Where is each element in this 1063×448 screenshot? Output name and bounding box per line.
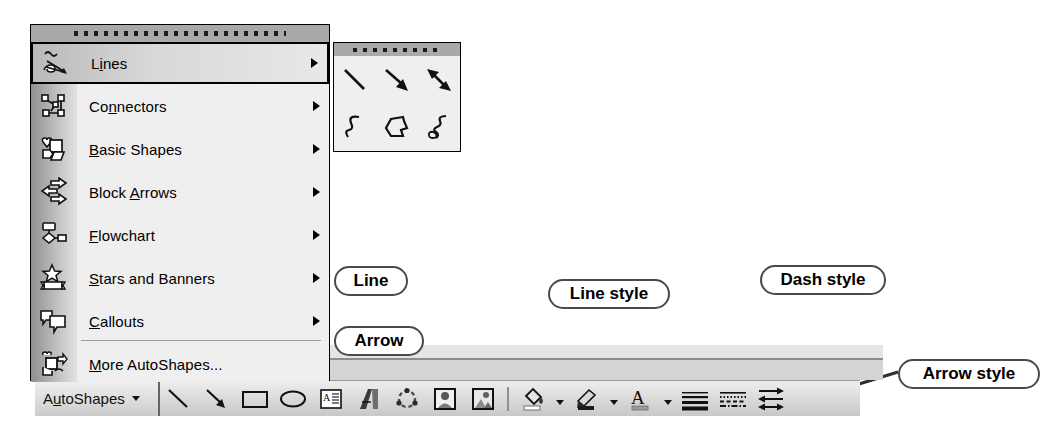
submenu-arrow-icon <box>303 101 329 111</box>
menu-item-block-arrows[interactable]: Block Arrows <box>31 171 329 213</box>
picture-button[interactable] <box>464 382 502 416</box>
dash-style-icon <box>718 387 748 411</box>
submenu-arrow-icon <box>303 187 329 197</box>
text-box-icon: A <box>319 388 343 410</box>
line-style-icon <box>680 387 710 411</box>
menu-item-label: Flowchart <box>77 227 303 244</box>
clip-art-button[interactable] <box>426 382 464 416</box>
arrow-style-button[interactable] <box>752 382 790 416</box>
fill-color-button[interactable] <box>514 382 552 416</box>
callout-arrow-style: Arrow style <box>898 359 1040 389</box>
menu-drag-handle[interactable] <box>31 25 329 42</box>
callouts-icon <box>31 300 77 342</box>
lines-submenu-grid <box>334 56 460 151</box>
document-canvas <box>330 152 883 345</box>
oval-button[interactable] <box>274 382 312 416</box>
chevron-down-icon <box>664 400 672 405</box>
menu-item-label: Callouts <box>77 313 303 330</box>
dash-style-button[interactable] <box>714 382 752 416</box>
submenu-arrow-icon <box>303 230 329 240</box>
callout-arrow: Arrow <box>334 326 424 356</box>
line-tool[interactable] <box>334 56 376 104</box>
chevron-down-icon <box>610 400 618 405</box>
scribble-icon <box>424 112 454 142</box>
submenu-drag-handle[interactable] <box>334 43 460 56</box>
rectangle-icon <box>240 388 270 410</box>
wordart-icon <box>356 387 382 411</box>
callout-dash-style: Dash style <box>760 265 886 295</box>
menu-item-flowchart[interactable]: Flowchart <box>31 214 329 256</box>
chevron-down-icon <box>132 396 140 401</box>
fill-color-dropdown[interactable] <box>552 382 568 416</box>
line-button[interactable] <box>160 382 198 416</box>
lines-submenu <box>333 42 461 152</box>
wordart-button[interactable] <box>350 382 388 416</box>
diagram-icon <box>394 387 420 411</box>
menu-item-label: Connectors <box>77 98 303 115</box>
menu-item-more-autoshapes[interactable]: More AutoShapes... <box>31 343 329 385</box>
font-color-dropdown[interactable] <box>660 382 676 416</box>
line-color-dropdown[interactable] <box>606 382 622 416</box>
menu-body: Lines Con <box>31 42 329 382</box>
arrow-style-icon <box>756 386 786 412</box>
menu-item-label: Block Arrows <box>77 184 303 201</box>
menu-item-callouts[interactable]: Callouts <box>31 300 329 342</box>
arrow-icon <box>204 388 230 410</box>
font-color-icon: A <box>628 386 654 412</box>
connectors-icon <box>31 85 77 127</box>
flowchart-icon <box>31 214 77 256</box>
drawing-toolbar: AutoShapes A <box>35 380 860 416</box>
submenu-arrow-icon <box>303 316 329 326</box>
arrow-icon <box>382 65 412 95</box>
clip-art-icon <box>433 387 457 411</box>
drag-dots-icon <box>353 48 441 52</box>
line-icon <box>166 388 192 410</box>
submenu-arrow-icon <box>303 144 329 154</box>
fill-color-icon <box>520 386 546 412</box>
menu-item-label: Lines <box>79 55 301 72</box>
menu-item-connectors[interactable]: Connectors <box>31 85 329 127</box>
curve-tool[interactable] <box>334 104 376 152</box>
drag-dots-icon <box>74 31 286 36</box>
callout-line: Line <box>334 266 408 296</box>
scribble-tool[interactable] <box>418 104 460 152</box>
autoshapes-popup-menu: Lines Con <box>30 24 330 381</box>
freeform-tool[interactable] <box>376 104 418 152</box>
stars-banners-icon <box>31 257 77 299</box>
autoshapes-button-label: AutoShapes <box>43 390 125 407</box>
line-icon <box>340 65 370 95</box>
double-arrow-icon <box>424 65 454 95</box>
more-autoshapes-icon <box>31 343 77 385</box>
text-box-button[interactable]: A <box>312 382 350 416</box>
menu-item-label: More AutoShapes... <box>77 356 303 373</box>
line-color-button[interactable] <box>568 382 606 416</box>
line-color-icon <box>574 386 600 412</box>
arrow-tool[interactable] <box>376 56 418 104</box>
diagram-button[interactable] <box>388 382 426 416</box>
menu-item-label: Basic Shapes <box>77 141 303 158</box>
toolbar-separator <box>507 387 509 411</box>
menu-item-stars-and-banners[interactable]: Stars and Banners <box>31 257 329 299</box>
submenu-arrow-icon <box>301 58 327 68</box>
picture-icon <box>471 387 495 411</box>
rectangle-button[interactable] <box>236 382 274 416</box>
toolbar-upper-band <box>330 360 883 380</box>
oval-icon <box>278 388 308 410</box>
submenu-arrow-icon <box>303 273 329 283</box>
double-arrow-tool[interactable] <box>418 56 460 104</box>
chevron-down-icon <box>556 400 564 405</box>
freeform-icon <box>382 112 412 142</box>
arrow-button[interactable] <box>198 382 236 416</box>
font-color-button[interactable]: A <box>622 382 660 416</box>
line-style-button[interactable] <box>676 382 714 416</box>
autoshapes-menu-button[interactable]: AutoShapes <box>35 382 160 416</box>
callout-line-style: Line style <box>548 279 670 309</box>
menu-item-lines[interactable]: Lines <box>31 42 329 84</box>
lines-icon <box>33 42 79 84</box>
menu-item-label: Stars and Banners <box>77 270 303 287</box>
block-arrows-icon <box>31 171 77 213</box>
curve-icon <box>340 112 370 142</box>
basic-shapes-icon <box>31 128 77 170</box>
svg-text:A: A <box>323 392 331 403</box>
menu-item-basic-shapes[interactable]: Basic Shapes <box>31 128 329 170</box>
